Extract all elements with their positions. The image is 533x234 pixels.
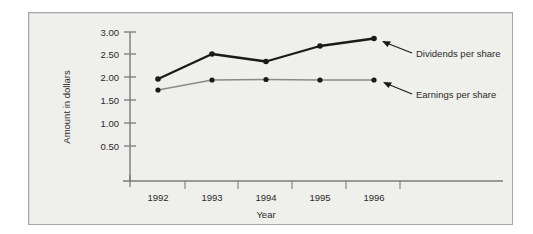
x-tick-label-1993: 1993 bbox=[201, 192, 222, 203]
figure-root: 3.00 2.50 2.00 1.50 1.00 0.50 1992 1993 … bbox=[0, 0, 533, 234]
data-point-dividends-1995 bbox=[317, 43, 323, 49]
data-point-earnings-1994 bbox=[263, 77, 268, 82]
y-tick-label-1-00: 1.00 bbox=[101, 118, 120, 129]
y-tick-label-2-50: 2.50 bbox=[101, 49, 120, 60]
y-tick-label-1-50: 1.50 bbox=[101, 95, 120, 106]
chart-panel: 3.00 2.50 2.00 1.50 1.00 0.50 1992 1993 … bbox=[28, 12, 513, 225]
data-point-dividends-1996 bbox=[371, 36, 377, 42]
annotation-label-earnings-per-share: Earnings per share bbox=[416, 89, 496, 100]
line-chart-plot: 3.00 2.50 2.00 1.50 1.00 0.50 1992 1993 … bbox=[29, 13, 514, 226]
y-tick-label-0-50: 0.50 bbox=[101, 141, 120, 152]
annotation-arrow-earnings bbox=[383, 82, 412, 94]
y-axis-title: Amount in dollars bbox=[61, 70, 72, 144]
x-tick-label-1996: 1996 bbox=[363, 192, 384, 203]
y-tick-label-2-00: 2.00 bbox=[101, 72, 120, 83]
y-tick-label-3-00: 3.00 bbox=[101, 27, 120, 38]
x-tick-label-1992: 1992 bbox=[147, 192, 168, 203]
data-point-earnings-1995 bbox=[317, 77, 322, 82]
data-point-earnings-1993 bbox=[209, 77, 214, 82]
annotation-arrow-dividends bbox=[382, 41, 412, 53]
x-axis-title: Year bbox=[256, 209, 275, 220]
data-point-dividends-1992 bbox=[155, 76, 161, 82]
annotation-label-dividends-per-share: Dividends per share bbox=[416, 48, 501, 59]
data-point-earnings-1996 bbox=[371, 77, 376, 82]
data-point-dividends-1994 bbox=[263, 59, 269, 65]
x-tick-label-1995: 1995 bbox=[309, 192, 330, 203]
data-point-earnings-1992 bbox=[155, 87, 160, 92]
x-axis-ticks bbox=[130, 175, 400, 189]
x-tick-label-1994: 1994 bbox=[255, 192, 276, 203]
data-point-dividends-1993 bbox=[209, 51, 215, 57]
